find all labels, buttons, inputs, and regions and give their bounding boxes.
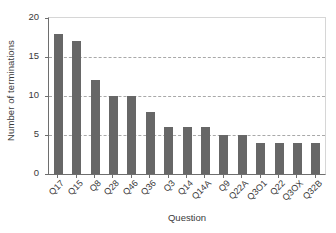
bar xyxy=(311,143,320,174)
bar xyxy=(201,127,210,174)
gridline xyxy=(49,57,325,58)
y-axis-tick-label: 15 xyxy=(17,51,39,61)
y-axis-tick-label: 0 xyxy=(17,168,39,178)
plot-inner xyxy=(49,18,325,174)
bar xyxy=(54,34,63,174)
y-axis-tick-label: 20 xyxy=(17,12,39,22)
y-axis-tick xyxy=(45,96,49,97)
y-axis-tick xyxy=(45,135,49,136)
bar xyxy=(238,135,247,174)
bar xyxy=(146,112,155,174)
x-axis-title: Question xyxy=(48,212,326,223)
y-axis-tick xyxy=(45,57,49,58)
y-axis-tick xyxy=(45,18,49,19)
bar xyxy=(183,127,192,174)
bar xyxy=(275,143,284,174)
bar xyxy=(164,127,173,174)
bar xyxy=(91,80,100,174)
bar-chart-figure: Number of terminations 05101520 Q17Q15Q8… xyxy=(0,0,336,233)
bar xyxy=(256,143,265,174)
plot-area xyxy=(48,17,326,175)
bar xyxy=(72,41,81,174)
x-axis-tick-labels: Q17Q15Q8Q28Q46Q36Q3Q14Q14AQ9Q22AQ3O1Q22Q… xyxy=(48,178,326,208)
bar xyxy=(127,96,136,174)
bar xyxy=(219,135,228,174)
y-axis-tick-label: 10 xyxy=(17,90,39,100)
y-axis-tick-label: 5 xyxy=(17,129,39,139)
bar xyxy=(109,96,118,174)
bar xyxy=(293,143,302,174)
y-axis-title-text: Number of terminations xyxy=(5,40,16,141)
